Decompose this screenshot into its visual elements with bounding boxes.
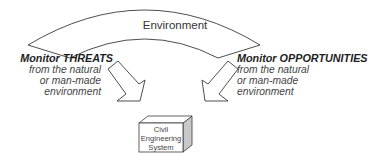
threats-annotation: Monitor THREATS from the natural or man-…: [4, 53, 113, 97]
opportunities-line-1: from the natural: [237, 64, 368, 75]
diagram-canvas: Environment Monitor THREATS from the nat…: [0, 0, 370, 160]
system-label-line-2: Engineering: [139, 134, 183, 143]
threats-arrow-icon: [108, 61, 145, 101]
opportunities-arrow-icon: [202, 61, 238, 101]
system-label-line-3: System: [139, 143, 183, 152]
opportunities-line-3: environment: [237, 86, 368, 97]
environment-arc: [28, 10, 260, 58]
system-label-line-1: Civil: [139, 125, 183, 134]
system-box-top: [139, 116, 192, 123]
opportunities-title: Monitor OPPORTUNITIES: [237, 52, 368, 64]
threats-line-1: from the natural: [4, 64, 113, 75]
threats-line-3: environment: [4, 86, 113, 97]
threats-line-2: or man-made: [4, 75, 113, 86]
opportunities-annotation: Monitor OPPORTUNITIES from the natural o…: [237, 53, 368, 97]
threats-title: Monitor THREATS: [20, 52, 113, 64]
environment-label: Environment: [140, 19, 210, 31]
opportunities-line-2: or man-made: [237, 75, 368, 86]
system-label: Civil Engineering System: [139, 125, 183, 152]
